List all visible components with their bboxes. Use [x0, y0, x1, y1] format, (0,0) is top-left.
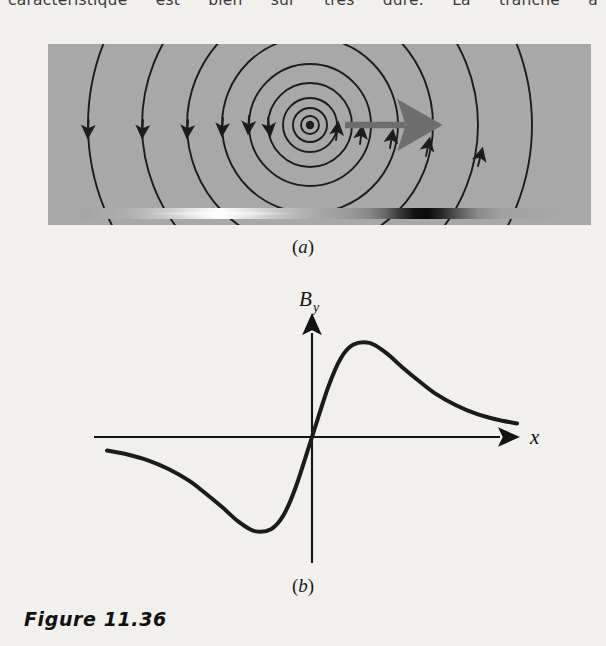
current-out-of-page-marker	[306, 121, 314, 129]
y-axis-label-subscript: y	[311, 300, 320, 315]
by-vs-x-chart: x B y	[0, 280, 606, 570]
figure-panel-b: x B y	[0, 280, 606, 570]
panel-b-label-close: )	[308, 575, 314, 596]
field-arrow-left-mid	[142, 120, 143, 132]
field-lines-illustration	[48, 44, 591, 225]
x-axis-label: x	[529, 425, 540, 449]
panel-b-label-letter: b	[298, 575, 308, 596]
field-arrow-left-outer	[88, 120, 89, 132]
body-text-line-content: caractéristique est bien sûr très dure. …	[0, 0, 606, 9]
body-text-above-figure: caractéristique est bien sûr très dure. …	[0, 0, 606, 11]
y-axis-label: B	[299, 287, 312, 311]
figure-panel-a	[48, 44, 591, 225]
panel-a-label-letter: a	[298, 236, 308, 257]
field-arrow-left-near2	[248, 116, 249, 128]
panel-a-label-close: )	[308, 236, 314, 257]
field-arrow-left-near	[222, 118, 223, 130]
induced-charge-gradient-strip	[80, 205, 560, 222]
field-arrow-left-inner	[187, 120, 188, 132]
panel-a-background	[48, 44, 591, 225]
panel-a-label: (a)	[0, 236, 606, 258]
figure-caption: Figure 11.36	[24, 608, 167, 630]
panel-b-label: (b)	[0, 575, 606, 597]
